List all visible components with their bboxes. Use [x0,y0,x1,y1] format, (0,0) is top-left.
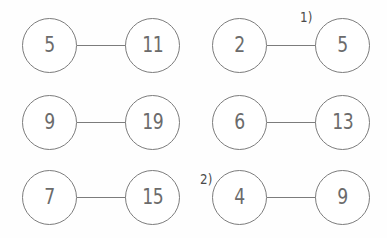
node-value-left-r2c2: 6 [234,112,245,133]
node-circle-left-r2c1[interactable]: 9 [22,95,77,150]
connector-line-r3c1 [77,197,126,198]
node-value-left-r1c2: 2 [234,35,245,56]
node-value-right-r3c1: 15 [142,187,163,208]
node-circle-left-r1c2[interactable]: 2 [212,18,267,73]
node-circle-right-r3c1[interactable]: 15 [125,170,180,225]
connector-line-r3c2 [267,197,316,198]
node-value-right-r1c1: 11 [142,35,163,56]
node-circle-right-r2c2[interactable]: 13 [315,95,370,150]
node-value-left-r3c1: 7 [44,187,55,208]
node-circle-left-r2c2[interactable]: 6 [212,95,267,150]
node-circle-right-r1c1[interactable]: 11 [125,18,180,73]
problem-label-1: 1) [300,10,312,24]
node-value-left-r3c2: 4 [234,187,245,208]
connector-line-r2c2 [267,122,316,123]
node-circle-left-r3c2[interactable]: 4 [212,170,267,225]
problem-label-2: 2) [200,172,212,186]
node-circle-right-r2c1[interactable]: 19 [125,95,180,150]
node-value-left-r2c1: 9 [44,112,55,133]
node-circle-left-r3c1[interactable]: 7 [22,170,77,225]
node-circle-right-r3c2[interactable]: 9 [315,170,370,225]
node-value-left-r1c1: 5 [44,35,55,56]
node-value-right-r2c1: 19 [142,112,163,133]
connector-line-r1c1 [77,45,126,46]
number-bond-worksheet: 5 11 2 5 9 19 6 13 [0,0,387,238]
node-value-right-r1c2: 5 [337,35,348,56]
connector-line-r2c1 [77,122,126,123]
connector-line-r1c2 [267,45,316,46]
node-value-right-r3c2: 9 [337,187,348,208]
node-circle-right-r1c2[interactable]: 5 [315,18,370,73]
node-circle-left-r1c1[interactable]: 5 [22,18,77,73]
node-value-right-r2c2: 13 [332,112,353,133]
